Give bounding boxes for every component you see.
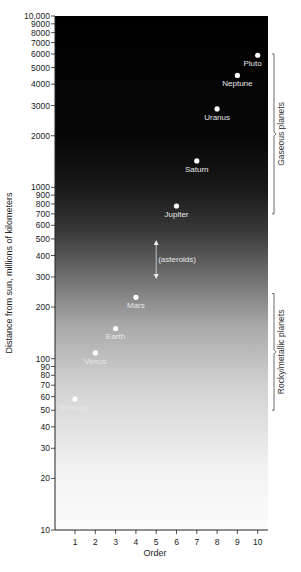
group-label: Rocky/metallic planets — [276, 310, 286, 395]
y-tick-label: 700 — [36, 209, 50, 219]
planet-label: Saturn — [185, 165, 209, 174]
x-tick-label: 9 — [235, 537, 240, 547]
planet-label: Pluto — [243, 59, 262, 68]
y-tick-label: 600 — [36, 220, 50, 230]
y-tick-label: 60 — [41, 392, 51, 402]
planet-dot-icon — [235, 73, 240, 78]
x-tick-label: 2 — [93, 537, 98, 547]
planet-label: Mercury — [61, 403, 90, 412]
planet-dot-icon — [113, 326, 118, 331]
planet-dot-icon — [93, 350, 98, 355]
asteroids-label: (asteroids) — [158, 255, 196, 264]
y-tick-label: 200 — [36, 302, 50, 312]
y-tick-label: 5000 — [31, 63, 50, 73]
planet-label: Venus — [84, 357, 106, 366]
y-tick-label: 100 — [36, 354, 50, 364]
x-tick-label: 4 — [134, 537, 139, 547]
planet-label: Mars — [127, 301, 145, 310]
planet-dot-icon — [72, 397, 77, 402]
y-tick-label: 3000 — [31, 101, 50, 111]
x-tick-label: 3 — [113, 537, 118, 547]
y-tick-label: 70 — [41, 380, 51, 390]
y-tick-label: 2000 — [31, 131, 50, 141]
x-tick-label: 8 — [215, 537, 220, 547]
y-tick-label: 300 — [36, 272, 50, 282]
y-tick-label: 8000 — [31, 28, 50, 38]
y-tick-label: 400 — [36, 251, 50, 261]
x-tick-label: 6 — [174, 537, 179, 547]
planet-dot-icon — [255, 53, 260, 58]
planet-label: Uranus — [204, 113, 230, 122]
y-tick-label: 500 — [36, 234, 50, 244]
planet-dot-icon — [174, 203, 179, 208]
solar-distance-chart: 1020304050607080901002003004005006007008… — [0, 0, 301, 572]
y-tick-label: 4000 — [31, 79, 50, 89]
planet-label: Jupiter — [164, 210, 188, 219]
planet-dot-icon — [194, 158, 199, 163]
planet-dot-icon — [215, 106, 220, 111]
x-tick-label: 1 — [73, 537, 78, 547]
y-axis: 1020304050607080901002003004005006007008… — [24, 11, 55, 535]
y-tick-label: 40 — [41, 422, 51, 432]
x-tick-label: 7 — [194, 537, 199, 547]
x-axis-title: Order — [143, 548, 166, 558]
y-tick-label: 20 — [41, 473, 51, 483]
x-tick-label: 5 — [154, 537, 159, 547]
y-tick-label: 30 — [41, 443, 51, 453]
y-tick-label: 800 — [36, 199, 50, 209]
planet-label: Earth — [106, 332, 125, 341]
x-tick-label: 10 — [253, 537, 263, 547]
y-tick-label: 80 — [41, 370, 51, 380]
y-tick-label: 10 — [41, 525, 51, 535]
x-axis: 12345678910 — [55, 530, 268, 547]
group-label: Gaseous planets — [276, 102, 286, 166]
y-tick-label: 50 — [41, 405, 51, 415]
plot-area — [55, 16, 268, 530]
planet-dot-icon — [133, 295, 138, 300]
y-tick-label: 7000 — [31, 38, 50, 48]
gaseous-planets-bracket: Gaseous planets — [272, 54, 286, 214]
y-axis-title: Distance from sun, millions of kilometer… — [4, 192, 14, 354]
rocky-planets-bracket: Rocky/metallic planets — [272, 294, 286, 411]
y-tick-label: 1000 — [31, 182, 50, 192]
planet-label: Neptune — [222, 79, 253, 88]
y-tick-label: 10,000 — [24, 11, 50, 21]
y-tick-label: 6000 — [31, 49, 50, 59]
